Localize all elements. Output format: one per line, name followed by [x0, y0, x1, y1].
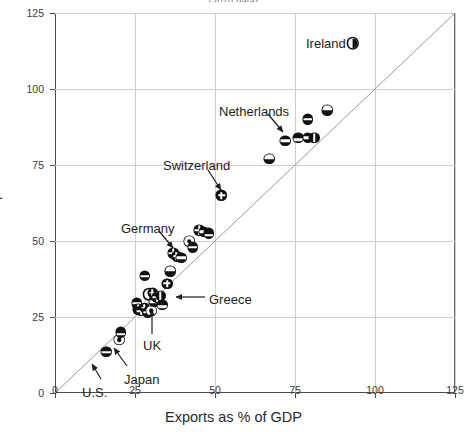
- data-point: [157, 300, 167, 310]
- data-point: [146, 306, 156, 316]
- data-point: [156, 291, 166, 301]
- plot-area: [55, 13, 455, 393]
- x-axis-title: Exports as % of GDP: [0, 409, 467, 425]
- x-tick-label: 0: [52, 384, 58, 396]
- data-point: [165, 267, 175, 277]
- annotation-label-greece: Greece: [209, 292, 252, 307]
- data-point: [265, 154, 275, 164]
- data-point: [101, 347, 111, 357]
- data-point: [322, 106, 332, 116]
- x-tick-label: 100: [366, 384, 384, 396]
- annotation-label-uk: UK: [143, 338, 161, 353]
- annotation-label-ireland: Ireland: [306, 36, 346, 51]
- data-point: [217, 191, 227, 201]
- y-tick-label: 100: [0, 83, 44, 95]
- data-point: [116, 327, 126, 337]
- data-point: [303, 115, 313, 125]
- data-point: [348, 39, 358, 49]
- y-tick-label: 50: [0, 235, 44, 247]
- y-tick-label: 25: [0, 311, 44, 323]
- annotation-label-germany: Germany: [121, 221, 174, 236]
- y-tick-label: 125: [0, 7, 44, 19]
- annotation-label-netherlands: Netherlands: [219, 104, 289, 119]
- annotation-label-japan: Japan: [124, 372, 159, 387]
- annotation-label-us: U.S.: [82, 385, 107, 400]
- data-point: [204, 229, 214, 239]
- x-tick-label: 50: [209, 384, 221, 396]
- data-point: [281, 136, 291, 146]
- data-point: [162, 279, 172, 289]
- y-tick-label: 0: [0, 387, 44, 399]
- y-tick-label: 75: [0, 159, 44, 171]
- data-point: [177, 253, 187, 263]
- x-tick-label: 125: [446, 384, 464, 396]
- x-tick-label: 75: [289, 384, 301, 396]
- y-axis-title: Imports as % of GDP: [0, 80, 2, 216]
- gridline-vertical: [455, 13, 456, 393]
- data-point: [140, 271, 150, 281]
- chart-root: (2010 data) 02550751001250255075100125 E…: [0, 0, 467, 432]
- data-point: [188, 242, 198, 252]
- data-point: [309, 133, 319, 143]
- chart-title-clipped: (2010 data): [0, 0, 467, 2]
- data-point: [293, 133, 303, 143]
- annotation-label-switzerland: Switzerland: [163, 158, 230, 173]
